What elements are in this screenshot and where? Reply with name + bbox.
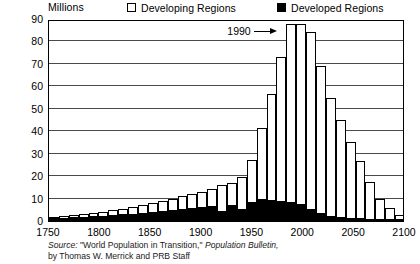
bar-group [237,177,247,221]
bar-segment-developing [375,199,385,220]
bar-group [346,142,356,221]
bar-segment-developing [316,66,326,214]
bar-segment-developing [267,94,277,201]
bar-group [395,215,404,221]
bar-segment-developed [217,212,227,221]
bar-segment-developing [217,185,227,212]
bar-group [296,24,306,222]
bar-segment-developed [148,213,158,221]
bar-segment-developing [187,194,197,209]
bar-group [49,217,59,221]
source-quote: "World Population in Transition," [80,240,205,250]
bar-segment-developed [395,219,404,221]
bar-segment-developing [286,24,296,204]
bar-segment-developed [69,218,79,221]
bar-group [108,210,118,221]
bar-group [118,209,128,221]
legend-label-developed-regions: Developed Regions [291,2,384,14]
bar-group [267,94,277,221]
source-note: Source: "World Population in Transition,… [48,240,388,262]
bar-segment-developed [89,217,99,221]
bar-segment-developing [148,203,158,213]
bar-group [336,120,346,221]
y-axis-tick-label: 70 [4,59,43,70]
bar-group [158,201,168,221]
x-axis-tick-label: 1850 [127,226,173,238]
bar-group [98,212,108,221]
bar-segment-developed [128,215,138,222]
bar-segment-developed [365,219,375,221]
bar-segment-developed [49,219,59,221]
filled-square-icon [277,3,286,12]
bar-group [276,57,286,221]
bar-group [197,192,207,221]
y-axis-tick-label: 40 [4,126,43,137]
bar-group [385,208,395,221]
x-axis-tick-label: 1750 [25,226,71,238]
chart-legend: Millions Developing Regions Developed Re… [0,0,410,18]
bar-segment-developed [79,218,89,221]
bar-group [69,215,79,221]
bar-group [128,207,138,221]
bar-group [187,194,197,221]
source-publication: Population Bulletin, [205,240,279,250]
bar-segment-developed [197,208,207,221]
bar-segment-developing [336,120,346,218]
bar-group [326,98,336,221]
bar-group [316,66,326,221]
x-axis-tick-label: 2000 [279,226,325,238]
bar-group [168,199,178,221]
bar-segment-developing [197,192,207,208]
bar-segment-developed [346,219,356,221]
y-axis-unit-label: Millions [48,1,84,13]
source-line-1: Source: "World Population in Transition,… [48,240,388,251]
bar-segment-developed [237,210,247,221]
x-axis-tick-label: 1900 [178,226,224,238]
bar-segment-developing [276,57,286,202]
bar-segment-developing [365,182,375,220]
bar-group [207,189,217,221]
bar-segment-developed [168,211,178,221]
bar-segment-developed [118,215,128,221]
bar-segment-developing [128,207,138,215]
bar-segment-developed [286,203,296,221]
bar-segment-developing [178,196,188,209]
x-axis-tick-label: 2050 [330,226,376,238]
bar-group [257,128,267,221]
y-axis-tick-label: 80 [4,36,43,47]
plot-area [48,20,404,222]
bar-segment-developing [306,32,316,209]
bar-group [217,185,227,221]
legend-item-developing-regions: Developing Regions [127,1,236,14]
bar-segment-developed [178,210,188,221]
bar-segment-developed [247,203,257,221]
bar-group [365,182,375,222]
x-axis-tick-label: 2100 [381,226,420,238]
bar-group [178,196,188,221]
bar-segment-developing [138,205,148,214]
x-axis-tick-label: 1950 [228,226,274,238]
bar-segment-developed [316,214,326,221]
bar-group [356,161,366,221]
bar-segment-developed [267,201,277,221]
bar-group [148,203,158,221]
bar-series-layer [49,21,403,221]
bar-segment-developing [356,161,366,219]
bar-segment-developing [158,201,168,212]
hollow-square-icon [127,3,136,12]
bar-segment-developing [247,160,257,203]
bar-segment-developing [237,177,247,210]
annotation-1990-label: 1990 [227,25,250,37]
x-axis-tick-label: 1800 [76,226,122,238]
bar-group [227,183,237,221]
bar-segment-developed [326,217,336,221]
bar-segment-developed [138,214,148,221]
bar-group [286,24,296,222]
bar-group [79,214,89,221]
source-line-2: by Thomas W. Merrick and PRB Staff [48,251,388,262]
bar-segment-developed [158,212,168,221]
y-axis-tick-label: 10 [4,194,43,205]
bar-segment-developing [346,142,356,218]
bar-segment-developed [98,217,108,221]
legend-item-developed-regions: Developed Regions [277,1,384,14]
